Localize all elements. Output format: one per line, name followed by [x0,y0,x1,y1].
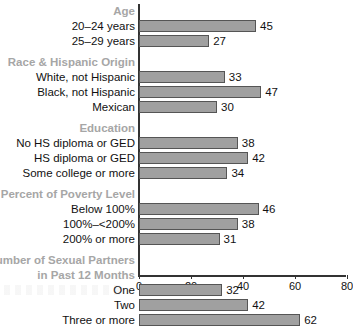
bar-row[interactable]: Black, not Hispanic47 [0,85,347,100]
bar[interactable] [139,137,238,149]
category-label: No HS diploma or GED [0,136,135,151]
bar[interactable] [139,167,227,179]
bar-value-label: 45 [260,19,273,34]
bar[interactable] [139,233,220,245]
bar-row[interactable]: 20–24 years45 [0,19,347,34]
group-header-row: Number of Sexual Partners [0,253,347,268]
bar-value-label: 42 [252,151,265,166]
bar-row[interactable]: 100%–<200%38 [0,217,347,232]
bar[interactable] [139,218,238,230]
bar[interactable] [139,71,225,83]
bar[interactable] [139,35,209,47]
bar-value-label: 33 [229,70,242,85]
category-label: 200% or more [0,232,135,247]
group-header-row: Education [0,121,347,136]
bar[interactable] [139,299,248,311]
bar-value-label: 38 [242,217,255,232]
group-header-label: in Past 12 Months [0,268,135,283]
watermark-artifact [4,285,124,295]
bar-value-label: 42 [252,298,265,313]
bar-value-label: 27 [213,34,226,49]
bar[interactable] [139,20,256,32]
bar-row[interactable]: Two42 [0,298,347,313]
bar-value-label: 62 [304,313,317,328]
bar[interactable] [139,203,259,215]
bar-value-label: 32 [226,283,239,298]
category-label: 25–29 years [0,34,135,49]
category-label: Black, not Hispanic [0,85,135,100]
bar-row[interactable]: Three or more62 [0,313,347,328]
bar-value-label: 38 [242,136,255,151]
category-label: Two [0,298,135,313]
group-header-label: Education [0,121,135,136]
category-label: 100%–<200% [0,217,135,232]
group-header-label: Age [0,4,135,19]
bar[interactable] [139,314,300,326]
bar-value-label: 30 [221,100,234,115]
category-label: 20–24 years [0,19,135,34]
bar-row[interactable]: Mexican30 [0,100,347,115]
group-header-label: Number of Sexual Partners [0,253,135,268]
bar-row[interactable]: 25–29 years27 [0,34,347,49]
category-label: Below 100% [0,202,135,217]
bar-row[interactable]: 200% or more31 [0,232,347,247]
group-header-row: in Past 12 Months [0,268,347,283]
bar-row[interactable]: White, not Hispanic33 [0,70,347,85]
group-header-label: Race & Hispanic Origin [0,55,135,70]
bar-row[interactable]: No HS diploma or GED38 [0,136,347,151]
bar-row[interactable]: HS diploma or GED42 [0,151,347,166]
group-header-row: Age [0,4,347,19]
category-label: Some college or more [0,166,135,181]
bar-value-label: 34 [231,166,244,181]
category-label: Mexican [0,100,135,115]
bar-row[interactable]: Below 100%46 [0,202,347,217]
group-header-row: Race & Hispanic Origin [0,55,347,70]
bar[interactable] [139,86,261,98]
group-header-label: Percent of Poverty Level [0,187,135,202]
bar-value-label: 31 [224,232,237,247]
bar[interactable] [139,284,222,296]
bar[interactable] [139,152,248,164]
bar[interactable] [139,101,217,113]
category-label: Three or more [0,313,135,328]
category-label: White, not Hispanic [0,70,135,85]
bar-row[interactable]: Some college or more34 [0,166,347,181]
bar-value-label: 47 [265,85,278,100]
category-label: HS diploma or GED [0,151,135,166]
group-header-row: Percent of Poverty Level [0,187,347,202]
bar-value-label: 46 [263,202,276,217]
